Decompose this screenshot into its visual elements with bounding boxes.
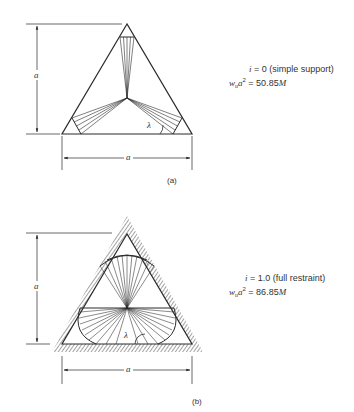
caption-a: (a)	[167, 176, 177, 185]
caption-b: (b)	[192, 397, 202, 406]
horizontal-dimension-label-b: a	[124, 364, 133, 374]
load-result-a: wua2 = 50.85M	[229, 75, 334, 92]
figure-a	[26, 24, 192, 170]
angle-label-b: λ	[124, 330, 128, 340]
equation-a: i = 0 (simple support) wua2 = 50.85M	[229, 64, 334, 92]
angle-label-a: λ	[147, 120, 151, 130]
figure-b	[26, 216, 203, 384]
equation-b: i = 1.0 (full restraint) wua2 = 86.85M	[229, 273, 325, 301]
horizontal-dimension-label-a: a	[124, 152, 133, 162]
vertical-dimension-label-b: a	[34, 281, 39, 291]
yield-line-diagram	[0, 0, 354, 412]
restraint-condition-b: i = 1.0 (full restraint)	[229, 273, 325, 284]
vertical-dimension-label-a: a	[34, 70, 39, 80]
restraint-condition-a: i = 0 (simple support)	[229, 64, 334, 75]
load-result-b: wua2 = 86.85M	[229, 284, 325, 301]
